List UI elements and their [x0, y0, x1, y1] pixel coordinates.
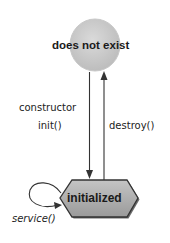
transition-destroy-arrow	[101, 71, 108, 180]
state-label-initialized: initialized	[67, 191, 122, 205]
transition-label-destroy: destroy()	[109, 120, 154, 131]
transition-label-init: init()	[38, 120, 62, 131]
state-label-does-not-exist: does not exist	[52, 39, 129, 51]
transition-service-loop	[29, 183, 62, 209]
servlet-lifecycle-diagram: does not exist constructor init() destro…	[0, 0, 170, 243]
transition-label-service: service()	[12, 213, 56, 224]
transition-constructor-init-arrow	[86, 72, 93, 179]
transition-label-constructor: constructor	[19, 102, 76, 113]
